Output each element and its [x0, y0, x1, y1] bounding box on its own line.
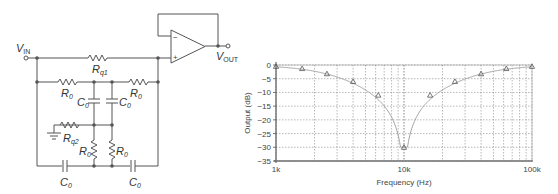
x-tick-labels: 1k10k100k [272, 165, 542, 174]
label-vout: VOUT [216, 50, 239, 63]
chart: 0−5−10−15−20−25−30−35 1k10k100k Frequenc… [243, 61, 542, 187]
vout-terminal [226, 44, 230, 48]
rq1-resistor [88, 55, 107, 61]
y-tick-label: −35 [257, 157, 271, 166]
y-tick-label: −5 [262, 75, 272, 84]
label-r0-vertical-left: R0 [79, 145, 91, 158]
label-rq1: Rq1 [92, 63, 108, 77]
y-axis-label: Output (dB) [243, 92, 252, 134]
triangle-marker [376, 93, 381, 98]
label-r0-vertical-right: R0 [116, 145, 128, 158]
opamp-minus: − [173, 33, 178, 42]
chart-grid [276, 65, 532, 161]
triangle-marker [300, 66, 305, 71]
y-tick-labels: 0−5−10−15−20−25−30−35 [257, 61, 276, 166]
triangle-marker [428, 93, 433, 98]
label-c0-bottom-left: C0 [60, 176, 72, 189]
y-tick-label: 0 [267, 61, 272, 70]
y-tick-label: −10 [257, 88, 271, 97]
y-tick-label: −25 [257, 130, 271, 139]
r0-resistor-right [129, 79, 148, 85]
x-tick-label: 1k [272, 165, 281, 174]
ground-icon [47, 133, 61, 139]
triangle-marker [504, 66, 509, 71]
opamp-plus: + [173, 53, 178, 62]
y-tick-label: −30 [257, 143, 271, 152]
label-r0-right: R0 [130, 87, 142, 100]
y-tick-label: −15 [257, 102, 271, 111]
figure: − + VIN VOUT Rq1 R0 R0 C0 C0 Rq2 R0 R0 C… [0, 0, 558, 194]
r0-resistor-vertical-left [91, 140, 97, 159]
x-tick-label: 10k [398, 165, 412, 174]
data-markers [273, 64, 534, 150]
label-vin: VIN [16, 42, 30, 55]
label-c0-bottom-right: C0 [129, 176, 141, 189]
x-axis-label: Frequency (Hz) [376, 178, 431, 187]
vin-terminal [24, 56, 28, 60]
y-tick-label: −20 [257, 116, 271, 125]
r0-resistor-vertical-right [109, 140, 115, 159]
label-r0-left: R0 [61, 87, 73, 100]
label-rq2: Rq2 [63, 132, 79, 146]
x-tick-label: 100k [523, 165, 541, 174]
label-c0-left: C0 [77, 96, 89, 109]
circuit-schematic [24, 14, 230, 172]
r0-resistor-left [58, 79, 77, 85]
